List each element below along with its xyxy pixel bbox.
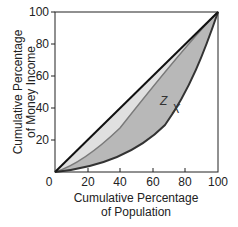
x-tick-label: 80 xyxy=(178,175,192,189)
x-axis-title-line2: of Population xyxy=(101,205,171,219)
y-axis-title-line1: Cumulative Percentage xyxy=(11,29,25,154)
x-tick-label: 0 xyxy=(46,175,53,189)
y-tick-label: 100 xyxy=(29,5,49,19)
y-axis-title-line2: of Money Income xyxy=(24,46,38,138)
lorenz-chart: 100 80 60 40 20 0 20 40 60 80 100 Cumula… xyxy=(0,0,238,227)
x-tick-label: 100 xyxy=(208,175,228,189)
x-tick-label: 60 xyxy=(146,175,160,189)
y-axis-ticks xyxy=(51,12,55,140)
x-axis-title-line1: Cumulative Percentage xyxy=(74,191,199,205)
curve-label-z: Z xyxy=(159,94,168,108)
x-tick-label: 40 xyxy=(113,175,127,189)
x-axis-ticks xyxy=(88,168,185,172)
curve-label-x: X xyxy=(171,102,181,116)
x-tick-label: 20 xyxy=(81,175,95,189)
